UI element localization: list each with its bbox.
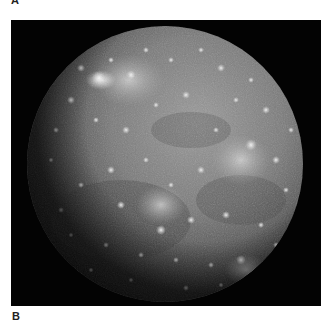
panel-label-b: B	[12, 311, 20, 322]
panel-label-a: A	[11, 0, 19, 6]
moon-photograph	[11, 20, 321, 306]
moon-image	[11, 20, 321, 306]
